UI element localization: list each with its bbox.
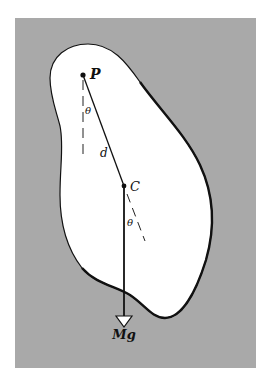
- physical-pendulum-diagram: P θ d C θ Mg: [0, 0, 269, 386]
- pivot-point: [80, 72, 85, 77]
- pivot-label: P: [89, 66, 101, 82]
- center-of-mass-label: C: [130, 179, 140, 194]
- center-of-mass-point: [122, 184, 127, 189]
- angle-at-pivot-label: θ: [85, 105, 91, 116]
- weight-force-label: Mg: [111, 327, 135, 342]
- angle-at-center-label: θ: [127, 217, 133, 228]
- distance-label: d: [100, 146, 108, 160]
